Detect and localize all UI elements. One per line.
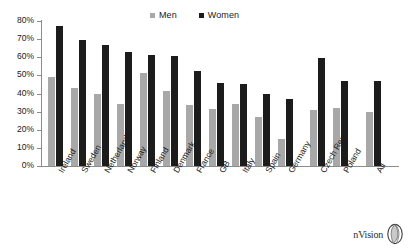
y-axis-tick — [37, 57, 41, 58]
sphere-icon — [385, 223, 405, 245]
x-axis-tick-labels: IrelandSwedenNetherlandsNorwayFinlandDen… — [0, 0, 411, 249]
chart-container: Men Women 0%10%20%30%40%50%60%70%80% Ire… — [0, 0, 411, 249]
x-tick-label: Spain — [264, 151, 282, 174]
y-axis-tick — [37, 39, 41, 40]
x-tick-label: Finland — [149, 146, 170, 174]
y-axis-tick — [37, 94, 41, 95]
x-tick-label: Italy — [241, 156, 256, 174]
x-tick-label: Norway — [126, 145, 148, 174]
y-axis-tick — [37, 21, 41, 22]
y-axis-tick — [37, 112, 41, 113]
x-tick-label: France — [195, 147, 216, 174]
x-tick-label: Sweden — [80, 143, 103, 174]
x-tick-label: Poland — [342, 147, 363, 174]
logo-text: nVision — [353, 229, 383, 240]
y-axis-tick — [37, 166, 41, 167]
x-tick-label: GB — [218, 159, 232, 174]
y-axis-tick — [37, 75, 41, 76]
nvision-logo: nVision — [353, 223, 405, 245]
y-axis-tick — [37, 148, 41, 149]
x-tick-label: Germany — [287, 140, 312, 175]
x-tick-label: Ireland — [57, 147, 77, 174]
y-axis-tick — [37, 130, 41, 131]
x-tick-label: All — [375, 162, 387, 174]
